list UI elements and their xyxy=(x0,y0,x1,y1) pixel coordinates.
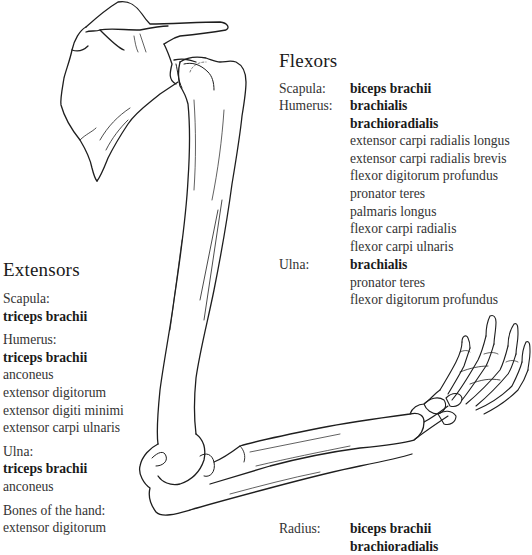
extensors-hand-group: Bones of the hand: extensor digitorum xyxy=(3,502,124,537)
group-label: Humerus: xyxy=(279,97,350,255)
muscle: flexor digitorum profundus xyxy=(350,167,510,185)
group-label: Scapula: xyxy=(279,80,350,98)
muscle-primary: triceps brachii xyxy=(3,460,124,478)
muscle: pronator teres xyxy=(350,185,510,203)
group-label: Scapula: xyxy=(3,290,124,308)
muscle: flexor carpi radialis xyxy=(350,220,510,238)
muscle: anconeus xyxy=(3,478,124,496)
muscle: palmaris longus xyxy=(350,203,510,221)
muscle: pronator teres xyxy=(350,274,498,292)
flexors-ulna-group: Ulna: brachialis pronator teres flexor d… xyxy=(279,256,498,309)
elbow-joint xyxy=(140,434,215,515)
extensors-scapula-group: Scapula: triceps brachii xyxy=(3,290,124,325)
muscle-primary: biceps brachii xyxy=(350,80,431,98)
extensors-list: Scapula: triceps brachii Humerus: tricep… xyxy=(3,290,124,543)
muscle: extensor carpi radialis longus xyxy=(350,132,510,150)
scapula-bone xyxy=(61,2,228,182)
hand-bones xyxy=(410,315,530,440)
group-label: Ulna: xyxy=(3,443,124,461)
muscle: extensor digitorum xyxy=(3,384,124,402)
muscle-primary: brachioradialis xyxy=(350,115,510,133)
forearm-bones xyxy=(190,413,424,510)
extensors-humerus-group: Humerus: triceps brachii anconeus extens… xyxy=(3,331,124,437)
extensors-ulna-group: Ulna: triceps brachii anconeus xyxy=(3,443,124,496)
flexors-humerus-group: Humerus: brachialis brachioradialis exte… xyxy=(279,97,510,255)
muscle: extensor digitorum xyxy=(3,519,124,537)
muscle: anconeus xyxy=(3,366,124,384)
flexors-radius-group: Radius: biceps brachii brachioradialis xyxy=(279,520,438,555)
muscle-primary: brachioradialis xyxy=(350,538,438,555)
group-label: Bones of the hand: xyxy=(3,502,124,520)
group-label: Radius: xyxy=(279,520,350,555)
muscle: extensor carpi radialis brevis xyxy=(350,150,510,168)
muscle: extensor carpi ulnaris xyxy=(3,419,124,437)
group-label: Ulna: xyxy=(279,256,350,309)
muscle-primary: triceps brachii xyxy=(3,349,124,367)
muscle: flexor carpi ulnaris xyxy=(350,238,510,256)
muscle-primary: brachialis xyxy=(350,256,498,274)
muscle-primary: biceps brachii xyxy=(350,520,438,538)
flexors-scapula-group: Scapula: biceps brachii xyxy=(279,80,431,98)
humerus-bone xyxy=(157,57,246,444)
muscle: extensor digiti minimi xyxy=(3,402,124,420)
muscle-primary: brachialis xyxy=(350,97,510,115)
flexors-title: Flexors xyxy=(279,50,337,72)
group-label: Humerus: xyxy=(3,331,124,349)
extensors-title: Extensors xyxy=(3,259,80,281)
muscle-primary: triceps brachii xyxy=(3,308,124,326)
muscle: flexor digitorum profundus xyxy=(350,291,498,309)
